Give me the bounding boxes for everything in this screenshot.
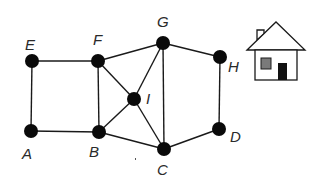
node-f bbox=[91, 54, 105, 68]
node-label-c: C bbox=[157, 161, 168, 178]
edge-f-i bbox=[98, 61, 134, 99]
node-label-e: E bbox=[25, 36, 36, 53]
edge-g-c bbox=[163, 43, 164, 149]
edge-f-g bbox=[98, 43, 163, 61]
edge-f-b bbox=[98, 61, 99, 132]
node-label-b: B bbox=[89, 143, 99, 160]
node-b bbox=[92, 125, 106, 139]
edge-b-c bbox=[99, 132, 164, 149]
node-a bbox=[24, 124, 38, 138]
node-d bbox=[212, 122, 226, 136]
house-door bbox=[278, 63, 287, 80]
edge-h-d bbox=[219, 57, 220, 129]
stray-mark bbox=[135, 158, 136, 160]
graph-edges bbox=[31, 43, 220, 149]
node-label-g: G bbox=[157, 13, 169, 30]
edge-g-h bbox=[163, 43, 220, 57]
house-window bbox=[261, 58, 271, 69]
node-h bbox=[213, 50, 227, 64]
node-label-i: I bbox=[146, 90, 150, 107]
node-g bbox=[156, 36, 170, 50]
roof bbox=[247, 22, 305, 50]
edge-a-b bbox=[31, 131, 99, 132]
edge-d-c bbox=[164, 129, 219, 149]
house-icon bbox=[247, 22, 305, 80]
node-c bbox=[157, 142, 171, 156]
node-i bbox=[127, 92, 141, 106]
node-label-h: H bbox=[228, 58, 239, 75]
graph-diagram: EFGHIABCD bbox=[0, 0, 319, 180]
node-e bbox=[25, 54, 39, 68]
edge-b-i bbox=[99, 99, 134, 132]
node-label-a: A bbox=[21, 145, 32, 162]
node-label-d: D bbox=[230, 128, 241, 145]
node-label-f: F bbox=[93, 31, 103, 48]
edge-e-a bbox=[31, 61, 32, 131]
